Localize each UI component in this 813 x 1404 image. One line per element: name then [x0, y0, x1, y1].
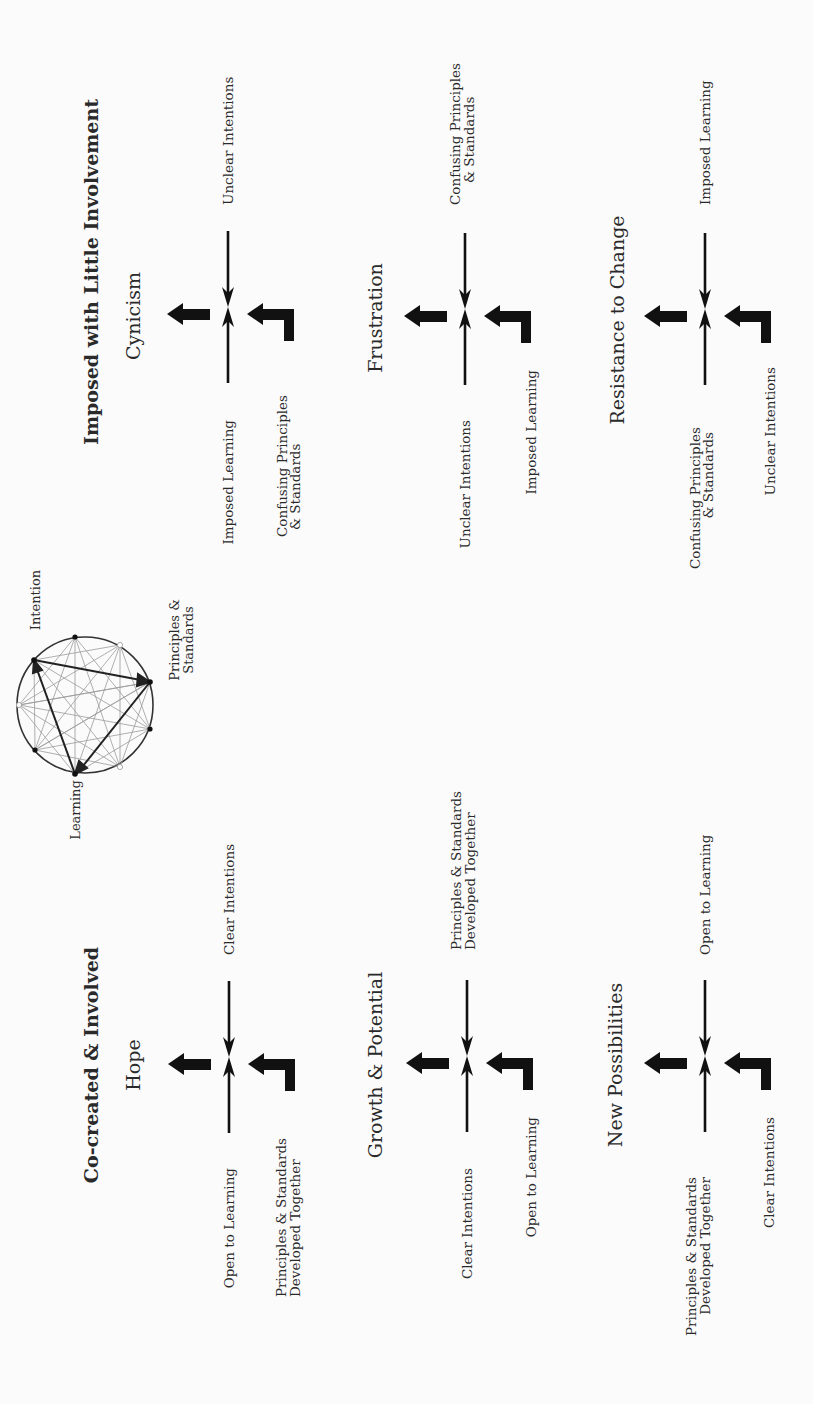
input-top: Open to Learning — [697, 834, 713, 955]
state-label: Hope — [122, 1039, 144, 1090]
node-label-principles-line2: Standards — [181, 606, 196, 674]
input-bottom-line2: Developed Together — [697, 1176, 713, 1314]
input-top: Unclear Intentions — [220, 77, 236, 205]
section-heading-imposed: Imposed with Little Involvement — [80, 99, 102, 445]
arrow-cluster — [168, 981, 295, 1133]
input-corner: Open to Learning — [523, 1117, 539, 1238]
section-heading-cocreated: Co-created & Involved — [80, 947, 102, 1183]
arrow-cluster — [644, 233, 771, 385]
input-bottom: Imposed Learning — [220, 420, 236, 545]
input-corner-line2: & Standards — [287, 443, 303, 530]
input-corner: Clear Intentions — [761, 1117, 777, 1228]
input-corner: Imposed Learning — [523, 370, 539, 495]
input-corner: Unclear Intentions — [762, 367, 778, 495]
block-hope: Hope Clear Intentions Open to Learning P… — [122, 844, 303, 1297]
block-new-possibilities: New Possibilities Open to Learning Princ… — [604, 834, 777, 1336]
input-corner-line2: Developed Together — [287, 1159, 303, 1297]
input-bottom: Clear Intentions — [459, 1168, 475, 1279]
input-top-line2: Developed Together — [462, 812, 478, 950]
block-growth-potential: Growth & Potential Principles & Standard… — [364, 791, 539, 1279]
arrow-cluster — [644, 980, 771, 1132]
block-cynicism: Cynicism Unclear Intentions Imposed Lear… — [122, 77, 303, 545]
section-imposed: Imposed with Little Involvement Cynicism… — [80, 63, 778, 569]
arrow-cluster — [167, 231, 294, 383]
node-label-intention: Intention — [28, 569, 43, 630]
input-bottom: Open to Learning — [221, 1168, 237, 1289]
arrow-cluster — [406, 980, 533, 1132]
state-label: New Possibilities — [604, 983, 626, 1147]
input-top-line2: & Standards — [461, 96, 477, 183]
block-resistance-to-change: Resistance to Change Imposed Learning Co… — [606, 80, 778, 569]
input-bottom: Unclear Intentions — [457, 420, 473, 548]
diagram-canvas: Imposed with Little Involvement Cynicism… — [0, 0, 813, 1404]
state-label: Resistance to Change — [606, 215, 628, 424]
node-label-principles-line1: Principles & — [167, 599, 182, 680]
input-top: Clear Intentions — [221, 844, 237, 955]
state-label: Frustration — [364, 263, 386, 373]
input-bottom-line2: & Standards — [700, 432, 716, 519]
input-top: Imposed Learning — [697, 80, 713, 205]
block-frustration: Frustration Confusing Principles & Stand… — [364, 63, 539, 548]
arrow-cluster — [404, 233, 531, 385]
enneagram-figure: Intention Principles & Standards Learnin… — [16, 569, 196, 840]
state-label: Growth & Potential — [364, 972, 386, 1159]
node-label-learning: Learning — [68, 780, 83, 840]
state-label: Cynicism — [122, 272, 144, 360]
section-cocreated: Co-created & Involved Hope Clear Intenti… — [80, 791, 777, 1336]
